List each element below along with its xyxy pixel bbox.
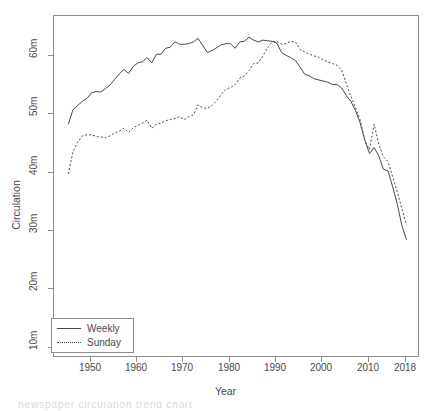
chart-figure: Circulation 60m 50m 40m 30m 20m 10m 1950… — [0, 0, 435, 411]
solid-line-key-icon — [57, 328, 81, 331]
legend-label-weekly: Weekly — [87, 322, 120, 336]
legend-entry-weekly: Weekly — [52, 322, 133, 336]
figure-caption: newspaper circulation trend chart — [0, 402, 435, 411]
x-axis-title: Year — [0, 385, 435, 397]
dotted-line-key-icon — [57, 342, 81, 345]
chart-legend: Weekly Sunday — [51, 318, 134, 353]
legend-label-sunday: Sunday — [87, 336, 121, 350]
legend-entry-sunday: Sunday — [52, 336, 133, 350]
figure-caption-text: newspaper circulation trend chart — [18, 402, 192, 410]
x-axis-title-text: Year — [215, 385, 236, 397]
